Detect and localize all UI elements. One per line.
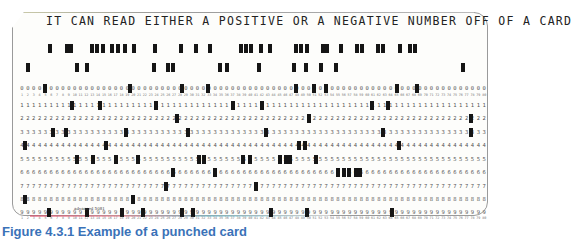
punched-hole <box>70 101 74 110</box>
punched-hole <box>386 101 390 110</box>
punched-hole <box>225 63 229 72</box>
card-row-7: 7777777777777777777777777777777777777777… <box>0 182 494 191</box>
card-row-1: 1111111111111111111111111111111111111111… <box>0 101 494 110</box>
punched-hole <box>98 101 102 110</box>
punched-hole <box>314 155 318 164</box>
printed-digit: 4 <box>481 141 487 150</box>
punched-hole <box>360 44 364 53</box>
card-row-6: 6666666666666666666666666666666666666666… <box>0 168 494 177</box>
punched-hole <box>268 44 272 53</box>
punched-hole <box>381 44 385 53</box>
punched-hole <box>259 44 263 53</box>
punched-hole <box>171 63 175 72</box>
printed-digit: 0 <box>481 84 487 93</box>
punched-hole <box>69 44 73 53</box>
punched-hole <box>202 155 206 164</box>
punched-hole <box>75 63 79 72</box>
printed-digit: 3 <box>481 128 487 137</box>
punched-hole <box>294 84 298 93</box>
punched-hole <box>370 101 374 110</box>
punched-hole <box>469 114 473 123</box>
punched-hole <box>408 44 412 53</box>
punched-hole <box>319 63 323 72</box>
punched-hole <box>132 44 136 53</box>
punched-hole <box>336 168 340 177</box>
card-row-2: 2222222222222222222222222222222222222222… <box>0 114 494 123</box>
punched-hole <box>64 128 68 137</box>
punched-hole <box>166 63 170 72</box>
punched-hole <box>381 128 385 137</box>
punched-hole <box>136 155 140 164</box>
punched-hole <box>469 128 473 137</box>
punched-hole <box>347 168 351 177</box>
column-number: 80 <box>481 93 487 98</box>
punched-hole <box>51 128 55 137</box>
punched-hole <box>26 63 30 72</box>
punched-hole <box>194 44 198 53</box>
card-printed-title: IT CAN READ EITHER A POSITIVE OR A NEGAT… <box>46 14 572 28</box>
punched-hole <box>303 141 307 150</box>
punched-hole <box>48 44 52 53</box>
printed-digit: 8 <box>481 195 487 204</box>
punched-hole <box>90 44 94 53</box>
punched-hole <box>75 155 79 164</box>
punched-hole <box>288 155 292 164</box>
punched-hole <box>208 44 212 53</box>
punched-hole <box>376 44 380 53</box>
punched-hole <box>116 44 120 53</box>
punched-hole <box>179 44 183 53</box>
punched-hole <box>397 141 401 150</box>
card-row-5: 5555555555555555555555555555555555555555… <box>0 155 494 164</box>
printed-digit: 5 <box>481 155 487 164</box>
punched-hole <box>339 44 343 53</box>
punched-hole <box>358 168 362 177</box>
punched-hole <box>43 84 47 93</box>
punched-hole <box>342 168 346 177</box>
card-top-edge <box>24 12 474 13</box>
punched-hole <box>244 44 248 53</box>
punched-hole <box>312 84 316 93</box>
punched-hole <box>231 101 235 110</box>
card-row-12 <box>0 44 494 53</box>
punched-hole <box>292 63 296 72</box>
punched-hole <box>413 44 417 53</box>
punched-hole <box>307 114 311 123</box>
punched-hole <box>186 128 190 137</box>
card-row-11 <box>0 63 494 72</box>
punched-hole <box>239 44 243 53</box>
column-number-row: 1234567891011121314151617181920212223242… <box>0 216 494 221</box>
punched-hole <box>110 44 114 53</box>
punched-hole <box>85 63 89 72</box>
punched-hole <box>114 155 118 164</box>
punched-hole <box>153 44 157 53</box>
punched-hole <box>154 101 158 110</box>
punched-hole <box>180 84 184 93</box>
punched-hole <box>206 84 210 93</box>
punched-hole <box>297 141 301 150</box>
punched-hole <box>254 182 258 191</box>
punched-hole <box>249 44 253 53</box>
punched-hole <box>305 44 309 53</box>
punched-hole <box>175 114 179 123</box>
punched-hole <box>294 44 298 53</box>
punched-hole <box>104 141 108 150</box>
printed-digit: 6 <box>481 168 487 177</box>
card-row-0: 0000000000000000000000000000000000000000… <box>0 84 494 93</box>
punched-hole <box>131 195 135 204</box>
punched-hole <box>278 155 282 164</box>
column-number: 80 <box>481 216 487 221</box>
printed-digit: 2 <box>481 114 487 123</box>
punched-hole <box>257 63 261 72</box>
punched-hole <box>171 168 175 177</box>
card-row-3: 3333333333333333333333333333333333333333… <box>0 128 494 137</box>
punched-hole <box>299 44 303 53</box>
card-row-4: 4444444444444444444444444444444444444444… <box>0 141 494 150</box>
printed-digit: 1 <box>481 101 487 110</box>
punched-hole <box>23 195 27 204</box>
printed-digit: 7 <box>481 182 487 191</box>
punched-hole <box>304 63 308 72</box>
punched-hole <box>395 84 399 93</box>
punched-hole <box>197 155 201 164</box>
punched-hole <box>260 101 264 110</box>
punched-hole <box>355 44 359 53</box>
